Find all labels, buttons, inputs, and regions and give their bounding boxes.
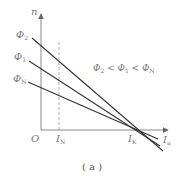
label-phi-n: ΦN bbox=[13, 74, 26, 85]
origin-label: O bbox=[31, 134, 39, 144]
mechanical-characteristic-plot bbox=[0, 0, 183, 182]
label-phi-1: Φ1 bbox=[14, 52, 26, 63]
label-phi-2: Φ2 bbox=[16, 30, 28, 41]
tick-i-n: IN bbox=[56, 134, 65, 145]
figure-caption: ( a ) bbox=[82, 162, 102, 172]
x-axis-label: Ia bbox=[163, 135, 171, 146]
flux-relation-annotation: Φ2 < Φ1 < ΦN bbox=[93, 64, 155, 74]
tick-i-k: IK bbox=[128, 134, 136, 145]
line-phi-2 bbox=[32, 38, 163, 151]
y-axis-label: n bbox=[31, 7, 37, 17]
figure-canvas: n Ia O IN IK Φ2 Φ1 ΦN Φ2 < Φ1 < ΦN ( a ) bbox=[0, 0, 183, 182]
